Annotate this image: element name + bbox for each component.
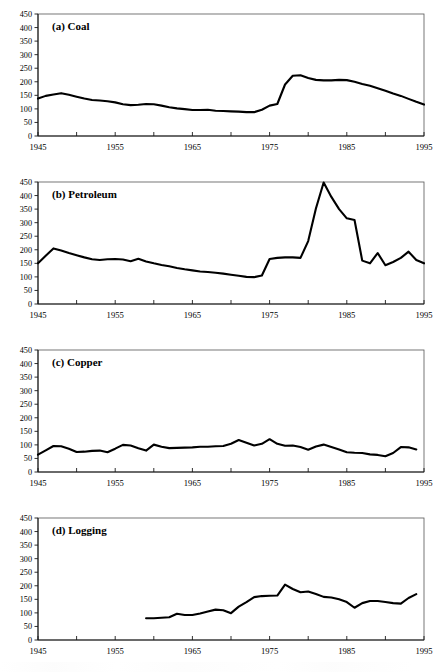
chart-canvas: 0501001502002503003504004501945195519651… (0, 168, 448, 336)
x-tick-label: 1955 (107, 142, 124, 152)
y-tick-label: 450 (20, 346, 32, 355)
y-tick-label: 50 (24, 454, 32, 463)
panel-coal: 0501001502002503003504004501945195519651… (0, 0, 448, 168)
x-tick-label: 1985 (338, 310, 355, 320)
y-tick-label: 0 (28, 300, 32, 309)
y-tick-label: 400 (20, 192, 32, 201)
x-tick-label: 1995 (415, 478, 432, 488)
y-tick-label: 200 (20, 582, 32, 591)
x-tick-label: 1975 (261, 478, 278, 488)
y-tick-label: 300 (20, 219, 32, 228)
y-tick-label: 200 (20, 414, 32, 423)
x-tick-label: 1975 (261, 646, 278, 656)
x-tick-label: 1965 (184, 142, 201, 152)
y-tick-label: 400 (20, 528, 32, 537)
x-tick-label: 1955 (107, 310, 124, 320)
panel-title: (b) Petroleum (52, 188, 117, 201)
chart-canvas: 0501001502002503003504004501945195519651… (0, 504, 448, 672)
x-tick-label: 1995 (415, 142, 432, 152)
y-tick-label: 100 (20, 273, 32, 282)
y-tick-label: 100 (20, 609, 32, 618)
y-tick-label: 350 (20, 373, 32, 382)
y-tick-label: 300 (20, 387, 32, 396)
plot-frame (38, 518, 424, 640)
y-tick-label: 250 (20, 400, 32, 409)
panel-title: (d) Logging (52, 524, 107, 537)
chart-canvas: 0501001502002503003504004501945195519651… (0, 0, 448, 168)
x-tick-label: 1945 (29, 646, 46, 656)
plot-frame (38, 14, 424, 136)
y-tick-label: 250 (20, 64, 32, 73)
y-tick-label: 50 (24, 286, 32, 295)
y-tick-label: 200 (20, 246, 32, 255)
x-tick-label: 1965 (184, 478, 201, 488)
x-tick-label: 1995 (415, 646, 432, 656)
plot-frame (38, 182, 424, 304)
y-tick-label: 50 (24, 118, 32, 127)
y-tick-label: 350 (20, 541, 32, 550)
x-tick-label: 1965 (184, 646, 201, 656)
series-line (38, 75, 424, 112)
y-tick-label: 450 (20, 10, 32, 19)
y-tick-label: 450 (20, 178, 32, 187)
panel-title: (c) Copper (52, 356, 103, 369)
y-tick-label: 400 (20, 360, 32, 369)
y-tick-label: 150 (20, 259, 32, 268)
series-line (38, 439, 416, 456)
y-tick-label: 250 (20, 232, 32, 241)
chart-canvas: 0501001502002503003504004501945195519651… (0, 336, 448, 504)
panel-title: (a) Coal (52, 20, 90, 33)
y-tick-label: 150 (20, 91, 32, 100)
page-bleed-artifact (0, 662, 448, 672)
y-tick-label: 150 (20, 427, 32, 436)
y-tick-label: 300 (20, 555, 32, 564)
y-tick-label: 300 (20, 51, 32, 60)
x-tick-label: 1945 (29, 310, 46, 320)
chart-figure: 0501001502002503003504004501945195519651… (0, 0, 448, 672)
x-tick-label: 1945 (29, 142, 46, 152)
x-tick-label: 1985 (338, 142, 355, 152)
x-tick-label: 1955 (107, 478, 124, 488)
y-tick-label: 0 (28, 636, 32, 645)
y-tick-label: 50 (24, 622, 32, 631)
x-tick-label: 1975 (261, 310, 278, 320)
y-tick-label: 450 (20, 514, 32, 523)
y-tick-label: 150 (20, 595, 32, 604)
y-tick-label: 100 (20, 441, 32, 450)
y-tick-label: 200 (20, 78, 32, 87)
x-tick-label: 1985 (338, 478, 355, 488)
y-tick-label: 100 (20, 105, 32, 114)
panel-petroleum: 0501001502002503003504004501945195519651… (0, 168, 448, 336)
series-line (146, 585, 416, 619)
x-tick-label: 1955 (107, 646, 124, 656)
y-tick-label: 350 (20, 205, 32, 214)
y-tick-label: 0 (28, 132, 32, 141)
x-tick-label: 1945 (29, 478, 46, 488)
panel-copper: 0501001502002503003504004501945195519651… (0, 336, 448, 504)
x-tick-label: 1995 (415, 310, 432, 320)
y-tick-label: 400 (20, 24, 32, 33)
y-tick-label: 0 (28, 468, 32, 477)
y-tick-label: 250 (20, 568, 32, 577)
y-tick-label: 350 (20, 37, 32, 46)
x-tick-label: 1975 (261, 142, 278, 152)
panel-logging: 0501001502002503003504004501945195519651… (0, 504, 448, 672)
x-tick-label: 1985 (338, 646, 355, 656)
x-tick-label: 1965 (184, 310, 201, 320)
